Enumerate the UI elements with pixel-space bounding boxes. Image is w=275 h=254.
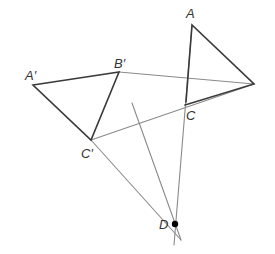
label-c-prime: C′ [81,146,93,161]
triangle-a-prime-b-prime-c-prime [33,72,119,140]
rotation-diagram: A C A′ B′ C′ D [0,0,275,254]
label-a-prime: A′ [24,68,37,83]
line-b-prime-to-b [119,72,254,84]
line-c-prime-to-b [91,84,254,140]
label-d: D [159,217,168,232]
label-c: C [186,108,196,123]
triangle-abc [185,25,254,105]
line-bisector-to-d [132,103,181,240]
point-d [172,221,178,227]
label-b-prime: B′ [114,56,126,71]
label-a: A [185,6,195,21]
